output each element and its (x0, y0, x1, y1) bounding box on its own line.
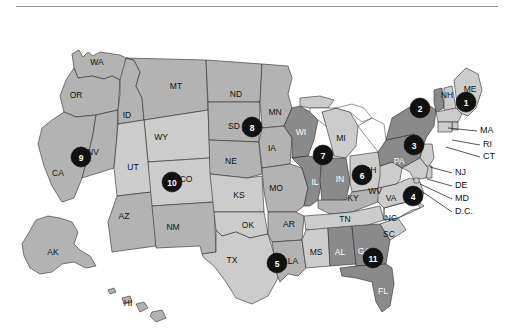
state-label-IL: IL (311, 177, 318, 187)
leader-line-CT (446, 147, 480, 157)
state-shape-DC[interactable] (414, 178, 419, 183)
map-marker-6[interactable]: 6 (352, 165, 372, 185)
marker-number-7: 7 (321, 151, 326, 161)
state-label-MT: MT (170, 81, 182, 91)
state-shape-CT[interactable] (438, 122, 452, 132)
map-marker-9[interactable]: 9 (71, 147, 91, 167)
state-shape-AZ[interactable] (108, 192, 156, 252)
map-figure: WAORCANVIDMTWYUTAZCONMNDSDNEKSOKTXMNIAMO… (0, 0, 514, 336)
us-choropleth-map: WAORCANVIDMTWYUTAZCONMNDSDNEKSOKTXMNIAMO… (0, 16, 514, 336)
map-marker-8[interactable]: 8 (242, 117, 262, 137)
marker-number-9: 9 (79, 153, 84, 163)
state-label-ID: ID (123, 110, 132, 120)
map-marker-5[interactable]: 5 (267, 253, 287, 273)
state-label-NH: NH (441, 90, 453, 100)
state-label-FL: FL (378, 286, 388, 296)
map-marker-7[interactable]: 7 (313, 145, 333, 165)
state-shape-AL[interactable] (328, 226, 356, 266)
callout-label-DE: DE (455, 180, 468, 190)
leader-line-DE (427, 179, 452, 186)
leader-line-NJ (430, 167, 452, 173)
state-label-SD: SD (228, 121, 240, 131)
state-label-IA: IA (268, 143, 276, 153)
state-label-OK: OK (242, 220, 255, 230)
state-label-HI: HI (124, 298, 133, 308)
state-label-MS: MS (310, 247, 323, 257)
state-label-OR: OR (70, 90, 83, 100)
marker-number-11: 11 (369, 254, 378, 264)
map-marker-1[interactable]: 1 (456, 92, 476, 112)
state-label-KY: KY (347, 193, 359, 203)
state-label-AZ: AZ (119, 211, 130, 221)
marker-number-5: 5 (275, 259, 280, 269)
state-label-IN: IN (336, 174, 345, 184)
marker-number-6: 6 (360, 171, 365, 181)
map-marker-2[interactable]: 2 (410, 98, 430, 118)
map-marker-11[interactable]: 11 (363, 248, 383, 268)
state-label-SC: SC (383, 229, 395, 239)
callout-label-NJ: NJ (455, 167, 466, 177)
callout-label-MD: MD (455, 193, 469, 203)
state-label-WI: WI (296, 127, 306, 137)
state-label-NC: NC (385, 213, 397, 223)
state-label-CA: CA (52, 168, 64, 178)
state-label-AL: AL (335, 247, 346, 257)
state-label-MO: MO (269, 183, 283, 193)
top-divider-rule (16, 6, 498, 7)
state-label-LA: LA (288, 256, 299, 266)
state-label-AK: AK (47, 247, 59, 257)
map-marker-4[interactable]: 4 (403, 186, 423, 206)
marker-number-8: 8 (250, 123, 255, 133)
callout-label-CT: CT (483, 151, 495, 161)
state-label-VA: VA (386, 193, 397, 203)
state-label-WA: WA (90, 57, 104, 67)
marker-number-10: 10 (167, 178, 177, 188)
marker-number-3: 3 (412, 141, 417, 151)
state-label-NM: NM (166, 222, 179, 232)
state-label-PA: PA (394, 156, 405, 166)
marker-number-2: 2 (418, 104, 423, 114)
map-marker-10[interactable]: 10 (162, 172, 182, 192)
state-shape-HI[interactable] (108, 288, 166, 322)
marker-number-4: 4 (411, 192, 416, 202)
state-label-KS: KS (233, 190, 245, 200)
state-label-AR: AR (283, 219, 295, 229)
callout-label-RI: RI (483, 139, 492, 149)
state-label-TX: TX (227, 255, 238, 265)
leader-line-MD (420, 184, 452, 199)
state-label-ND: ND (230, 89, 242, 99)
state-label-TN: TN (339, 214, 350, 224)
state-label-MI: MI (336, 133, 345, 143)
state-shape-NM[interactable] (152, 202, 216, 254)
state-shape-AK[interactable] (22, 216, 96, 274)
marker-number-1: 1 (464, 98, 469, 108)
state-label-WV: WV (368, 186, 382, 196)
state-label-WY: WY (154, 132, 168, 142)
state-label-MN: MN (268, 107, 281, 117)
leader-line-RI (452, 140, 480, 145)
callout-label-D.C.: D.C. (455, 206, 473, 216)
state-label-NE: NE (225, 156, 237, 166)
state-label-UT: UT (127, 162, 138, 172)
callout-label-MA: MA (480, 125, 494, 135)
map-marker-3[interactable]: 3 (404, 135, 424, 155)
